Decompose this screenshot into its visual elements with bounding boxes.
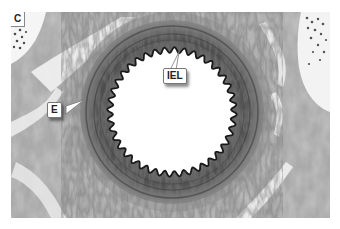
iel-label: IEL — [163, 68, 187, 84]
elastic-label: E — [47, 102, 62, 118]
